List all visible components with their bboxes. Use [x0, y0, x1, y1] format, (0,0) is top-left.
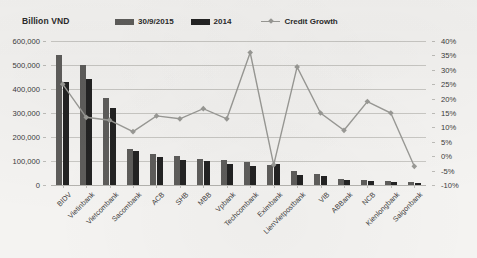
y-tick-mark [43, 89, 46, 90]
gridline [51, 185, 426, 186]
y2-tick-mark [432, 156, 435, 157]
legend-item-1[interactable]: 2014 [191, 17, 232, 26]
credit-growth-point[interactable] [200, 106, 206, 112]
y2-tick-mark [432, 55, 435, 56]
y2-tick-mark [432, 70, 435, 71]
x-tick-mark [133, 185, 134, 188]
credit-growth-point[interactable] [247, 50, 253, 56]
y-tick-label: 500,000 [13, 61, 40, 70]
x-tick-label: SHB [173, 190, 190, 207]
legend-label-2: Credit Growth [284, 17, 337, 26]
y2-tick-label: -10% [441, 181, 459, 190]
credit-growth-point[interactable] [271, 162, 277, 168]
y-axis-right: 40%35%30%25%20%15%10%5%0%-5%-10% [432, 41, 476, 185]
plot-area [51, 41, 426, 185]
y-tick-mark [43, 65, 46, 66]
y2-tick-mark [432, 142, 435, 143]
credit-growth-point[interactable] [294, 64, 300, 70]
y-tick-label: 600,000 [13, 37, 40, 46]
y2-tick-label: 35% [441, 51, 456, 60]
y2-tick-mark [432, 171, 435, 172]
legend-label-0: 30/9/2015 [138, 17, 174, 26]
y2-tick-label: 25% [441, 80, 456, 89]
credit-growth-point[interactable] [107, 117, 113, 123]
y2-tick-label: -5% [441, 166, 455, 175]
credit-growth-point[interactable] [224, 116, 230, 122]
y-tick-mark [43, 161, 46, 162]
y-tick-label: 300,000 [13, 109, 40, 118]
x-tick-label: VIB [316, 190, 331, 205]
y-tick-label: 0 [36, 181, 40, 190]
y2-tick-mark [432, 127, 435, 128]
legend-label-1: 2014 [214, 17, 232, 26]
x-tick-label: ABBank [329, 190, 354, 215]
y2-tick-label: 30% [441, 65, 456, 74]
y2-tick-mark [432, 99, 435, 100]
x-tick-mark [344, 185, 345, 188]
y2-tick-mark [432, 84, 435, 85]
y2-tick-mark [432, 41, 435, 42]
x-tick-mark [203, 185, 204, 188]
credit-growth-point[interactable] [411, 163, 417, 169]
x-tick-mark [156, 185, 157, 188]
y-tick-label: 100,000 [13, 157, 40, 166]
legend-line-marker-credit-growth [261, 19, 280, 25]
y2-tick-label: 10% [441, 123, 456, 132]
x-tick-mark [250, 185, 251, 188]
x-tick-mark [297, 185, 298, 188]
credit-growth-chart: Billion VND 30/9/2015 2014 Credit Growth… [0, 0, 477, 258]
x-tick-mark [227, 185, 228, 188]
y-tick-label: 400,000 [13, 85, 40, 94]
chart-legend: 30/9/2015 2014 Credit Growth [115, 17, 338, 26]
credit-growth-point[interactable] [388, 110, 394, 116]
legend-swatch-30-9-2015 [115, 19, 134, 25]
x-tick-mark [86, 185, 87, 188]
y-axis-title: Billion VND [22, 16, 69, 26]
x-tick-label: ACB [150, 190, 167, 207]
y2-tick-mark [432, 185, 435, 186]
x-tick-label: BIDV [55, 190, 73, 208]
x-tick-mark [274, 185, 275, 188]
y2-tick-mark [432, 113, 435, 114]
y-tick-mark [43, 41, 46, 42]
y2-tick-label: 15% [441, 109, 456, 118]
y2-tick-label: 0% [441, 152, 452, 161]
y-tick-mark [43, 137, 46, 138]
x-tick-mark [391, 185, 392, 188]
x-tick-mark [414, 185, 415, 188]
x-tick-label: NCB [361, 190, 378, 207]
x-tick-mark [180, 185, 181, 188]
y-tick-label: 200,000 [13, 133, 40, 142]
legend-swatch-2014 [191, 19, 210, 25]
y-tick-mark [43, 113, 46, 114]
x-tick-label: LienVietpostbank [262, 190, 308, 236]
credit-growth-line [51, 41, 426, 185]
x-tick-mark [321, 185, 322, 188]
x-tick-mark [110, 185, 111, 188]
x-tick-mark [367, 185, 368, 188]
y2-tick-label: 40% [441, 37, 456, 46]
legend-item-0[interactable]: 30/9/2015 [115, 17, 174, 26]
y-tick-mark [43, 185, 46, 186]
y2-tick-label: 5% [441, 137, 452, 146]
x-axis-labels: BIDVVietinbankVietcombankSacombankACBSHB… [51, 188, 426, 256]
x-tick-mark [63, 185, 64, 188]
legend-item-2[interactable]: Credit Growth [261, 17, 337, 26]
credit-growth-point[interactable] [177, 116, 183, 122]
credit-growth-polyline [63, 53, 415, 167]
y2-tick-label: 20% [441, 94, 456, 103]
x-tick-label: MBB [196, 190, 213, 207]
y-axis-left: 600,000500,000400,000300,000200,000100,0… [0, 41, 46, 185]
